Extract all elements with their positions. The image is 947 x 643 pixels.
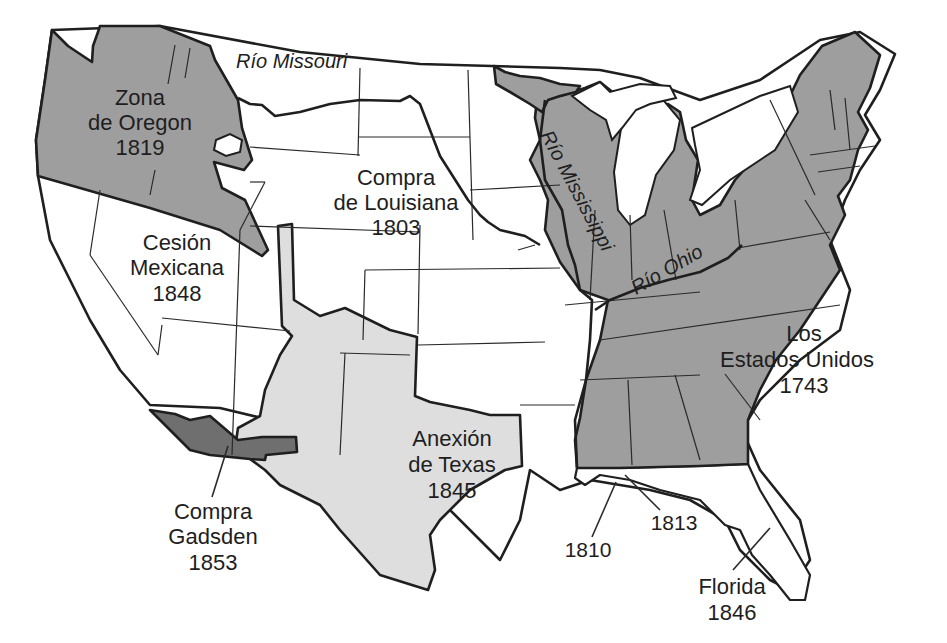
svg-text:de Texas: de Texas	[408, 452, 496, 477]
svg-text:Los: Los	[786, 321, 821, 346]
svg-text:Florida: Florida	[698, 574, 766, 599]
label-1813: 1813	[651, 511, 698, 534]
svg-text:Zona: Zona	[115, 85, 166, 110]
svg-text:Compra: Compra	[174, 499, 253, 524]
svg-text:1743: 1743	[780, 373, 829, 398]
leader-1810	[592, 482, 616, 537]
svg-text:1853: 1853	[189, 550, 238, 575]
svg-text:1848: 1848	[153, 281, 202, 306]
svg-text:1803: 1803	[372, 215, 421, 240]
label-gadsden: Compra Gadsden 1853	[168, 499, 257, 575]
svg-text:1819: 1819	[116, 135, 165, 160]
svg-text:Gadsden: Gadsden	[168, 524, 257, 549]
svg-text:1846: 1846	[708, 600, 757, 625]
svg-text:Compra: Compra	[357, 165, 436, 190]
svg-text:1845: 1845	[428, 478, 477, 503]
label-1810: 1810	[565, 538, 612, 561]
svg-text:Anexión: Anexión	[412, 426, 492, 451]
label-missouri-river: Río Missouri	[236, 50, 348, 72]
svg-text:de Louisiana: de Louisiana	[334, 190, 460, 215]
label-florida: Florida 1846	[698, 574, 766, 625]
svg-text:Estados Unidos: Estados Unidos	[720, 347, 874, 372]
territorial-expansion-map: Zona de Oregon 1819 Compra de Louisiana …	[0, 0, 947, 643]
svg-text:Cesión: Cesión	[143, 230, 211, 255]
svg-text:de Oregon: de Oregon	[88, 110, 192, 135]
svg-text:Mexicana: Mexicana	[130, 255, 225, 280]
